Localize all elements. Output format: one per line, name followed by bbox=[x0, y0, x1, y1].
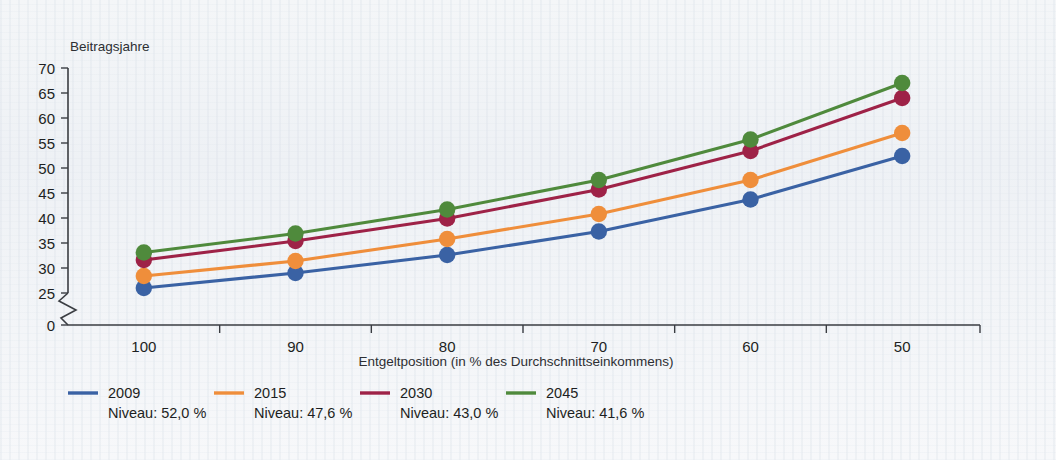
y-tick-label: 25 bbox=[38, 285, 55, 302]
legend-label: 2045 bbox=[546, 385, 578, 401]
y-axis-ticks: 025303540455055606570 bbox=[38, 60, 68, 334]
x-tick-label: 80 bbox=[439, 338, 456, 355]
y-tick-label: 35 bbox=[38, 235, 55, 252]
x-tick-label: 50 bbox=[894, 338, 911, 355]
y-tick-label: 30 bbox=[38, 260, 55, 277]
data-point bbox=[287, 253, 303, 269]
data-point bbox=[136, 244, 152, 260]
data-point bbox=[439, 247, 455, 263]
data-point bbox=[894, 125, 910, 141]
x-tick-label: 100 bbox=[131, 338, 156, 355]
data-point bbox=[136, 268, 152, 284]
legend-item-2045[interactable]: 2045Niveau: 41,6 % bbox=[506, 385, 644, 421]
legend-item-2030[interactable]: 2030Niveau: 43,0 % bbox=[360, 385, 498, 421]
series-line bbox=[144, 98, 902, 260]
data-point bbox=[742, 191, 758, 207]
data-point bbox=[742, 131, 758, 147]
data-point bbox=[894, 148, 910, 164]
legend-item-2009[interactable]: 2009Niveau: 52,0 % bbox=[68, 385, 206, 421]
y-tick-label: 65 bbox=[38, 85, 55, 102]
data-point bbox=[894, 75, 910, 91]
legend-label: 2009 bbox=[108, 385, 140, 401]
data-point bbox=[742, 172, 758, 188]
series-layer bbox=[136, 75, 911, 296]
y-axis-title: Beitragsjahre bbox=[70, 39, 150, 54]
series-line bbox=[144, 156, 902, 288]
y-tick-label: 55 bbox=[38, 135, 55, 152]
data-point bbox=[439, 201, 455, 217]
chart-legend: 2009Niveau: 52,0 %2015Niveau: 47,6 %2030… bbox=[68, 385, 644, 421]
y-tick-label: 0 bbox=[47, 317, 55, 334]
legend-sublabel: Niveau: 41,6 % bbox=[546, 405, 644, 421]
line-chart: Beitragsjahre 025303540455055606570 1009… bbox=[0, 0, 1056, 460]
y-tick-label: 70 bbox=[38, 60, 55, 77]
y-tick-label: 45 bbox=[38, 185, 55, 202]
data-point bbox=[894, 90, 910, 106]
x-axis-ticks: 1009080706050 bbox=[131, 325, 980, 355]
data-point bbox=[591, 223, 607, 239]
y-tick-label: 40 bbox=[38, 210, 55, 227]
legend-label: 2015 bbox=[254, 385, 286, 401]
data-point bbox=[591, 172, 607, 188]
legend-sublabel: Niveau: 52,0 % bbox=[108, 405, 206, 421]
legend-sublabel: Niveau: 43,0 % bbox=[400, 405, 498, 421]
legend-label: 2030 bbox=[400, 385, 432, 401]
y-tick-label: 50 bbox=[38, 160, 55, 177]
x-tick-label: 90 bbox=[287, 338, 304, 355]
data-point bbox=[439, 231, 455, 247]
chart-figure: Beitragsjahre 025303540455055606570 1009… bbox=[0, 0, 1056, 460]
x-tick-label: 60 bbox=[742, 338, 759, 355]
x-tick-label: 70 bbox=[590, 338, 607, 355]
y-tick-label: 60 bbox=[38, 110, 55, 127]
x-axis-title: Entgeltposition (in % des Durchschnittse… bbox=[358, 354, 673, 369]
series-2030 bbox=[136, 90, 911, 268]
series-2009 bbox=[136, 148, 911, 296]
data-point bbox=[591, 206, 607, 222]
legend-item-2015[interactable]: 2015Niveau: 47,6 % bbox=[214, 385, 352, 421]
legend-sublabel: Niveau: 47,6 % bbox=[254, 405, 352, 421]
data-point bbox=[287, 225, 303, 241]
